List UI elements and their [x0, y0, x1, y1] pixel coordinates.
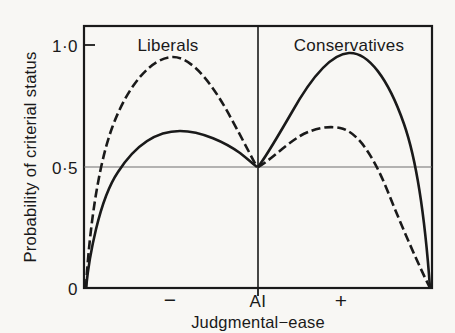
x-tick-label-plus: + — [335, 289, 347, 312]
chart-svg: 1·0 0·5 0 Probability of criterial statu… — [0, 0, 455, 333]
x-tick-label-ai: AI — [249, 292, 266, 311]
figure-container: 1·0 0·5 0 Probability of criterial statu… — [0, 0, 455, 333]
curve-liberals-dashed — [86, 57, 257, 288]
x-tick-label-minus: − — [164, 288, 176, 311]
curve-conservatives-dashed — [258, 127, 430, 288]
curve-conservatives-solid — [258, 53, 430, 288]
y-axis-title: Probability of criterial status — [21, 51, 39, 262]
x-axis-title: Judgmental−ease — [191, 313, 325, 331]
panel-label-liberals: Liberals — [137, 36, 198, 55]
curve-liberals-solid — [86, 131, 257, 288]
y-tick-label-0: 0 — [68, 280, 78, 299]
y-tick-label-1-0: 1·0 — [52, 37, 78, 56]
y-tick-label-0-5: 0·5 — [52, 159, 78, 178]
panel-label-conservatives: Conservatives — [294, 36, 404, 55]
